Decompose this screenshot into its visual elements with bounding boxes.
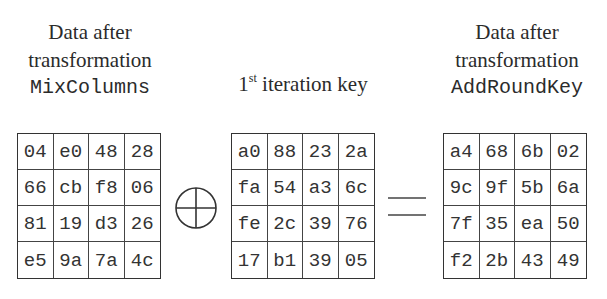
matrix-cell: 9f xyxy=(480,170,516,206)
label-line-2: transformation xyxy=(4,46,176,74)
matrix-cell: fa xyxy=(232,170,268,206)
matrix-cell: 02 xyxy=(551,134,587,170)
addroundkey-state-matrix: a4686b029c9f5b6a7f35ea50f22b4349 xyxy=(443,133,587,279)
matrix-cell: 39 xyxy=(303,242,339,278)
matrix-cell: fe xyxy=(232,206,268,242)
matrix-cell: 68 xyxy=(480,134,516,170)
matrix-cell: 23 xyxy=(303,134,339,170)
matrix-cell: 54 xyxy=(268,170,304,206)
matrix-cell: 04 xyxy=(18,134,54,170)
matrix-cell: 6c xyxy=(339,170,375,206)
matrix-cell: a4 xyxy=(444,134,480,170)
matrix-cell: 6b xyxy=(515,134,551,170)
matrix-cell: 49 xyxy=(551,242,587,278)
matrix-cell: 05 xyxy=(339,242,375,278)
matrix-cell: 5b xyxy=(515,170,551,206)
label-function-name: MixColumns xyxy=(4,74,176,102)
matrix-cell: 50 xyxy=(551,206,587,242)
round-key-matrix: a088232afa54a36cfe2c397617b13905 xyxy=(231,133,375,279)
matrix-cell: f8 xyxy=(89,170,125,206)
label-function-name: AddRoundKey xyxy=(431,74,603,102)
mixcolumns-state-matrix: 04e0482866cbf8068119d326e59a7a4c xyxy=(17,133,161,279)
matrix-cell: 35 xyxy=(480,206,516,242)
matrix-cell: 2a xyxy=(339,134,375,170)
label-line-2: transformation xyxy=(431,46,603,74)
matrix-cell: 48 xyxy=(89,134,125,170)
matrix-cell: 6a xyxy=(551,170,587,206)
matrix-cell: 9c xyxy=(444,170,480,206)
matrix-cell: 88 xyxy=(268,134,304,170)
matrix-cell: 7a xyxy=(89,242,125,278)
matrix-cell: 19 xyxy=(54,206,90,242)
matrix-cell: ea xyxy=(515,206,551,242)
matrix-cell: f2 xyxy=(444,242,480,278)
matrix-cell: 17 xyxy=(232,242,268,278)
matrix-cell: 2b xyxy=(480,242,516,278)
matrix-cell: 26 xyxy=(125,206,161,242)
matrix-cell: 43 xyxy=(515,242,551,278)
label-line-1: Data after xyxy=(431,18,603,46)
round-key-label: 1st iteration key xyxy=(218,70,388,101)
matrix-cell: 81 xyxy=(18,206,54,242)
matrix-cell: cb xyxy=(54,170,90,206)
equals-icon xyxy=(386,195,430,219)
matrix-cell: 4c xyxy=(125,242,161,278)
matrix-cell: 9a xyxy=(54,242,90,278)
matrix-cell: a0 xyxy=(232,134,268,170)
matrix-cell: d3 xyxy=(89,206,125,242)
matrix-cell: 39 xyxy=(303,206,339,242)
matrix-cell: e0 xyxy=(54,134,90,170)
matrix-cell: 06 xyxy=(125,170,161,206)
xor-icon xyxy=(173,185,219,231)
matrix-cell: 76 xyxy=(339,206,375,242)
round-key-label-line: 1st iteration key xyxy=(218,70,388,101)
matrix-cell: 2c xyxy=(268,206,304,242)
ordinal-suffix: st xyxy=(249,71,257,85)
matrix-cell: b1 xyxy=(268,242,304,278)
ordinal-number: 1 xyxy=(238,72,249,96)
matrix-cell: a3 xyxy=(303,170,339,206)
matrix-cell: 66 xyxy=(18,170,54,206)
matrix-cell: e5 xyxy=(18,242,54,278)
addroundkey-label: Data after transformation AddRoundKey xyxy=(431,18,603,102)
matrix-cell: 28 xyxy=(125,134,161,170)
matrix-cell: 7f xyxy=(444,206,480,242)
round-key-label-text: iteration key xyxy=(257,72,368,96)
label-line-1: Data after xyxy=(4,18,176,46)
mixcolumns-label: Data after transformation MixColumns xyxy=(4,18,176,102)
